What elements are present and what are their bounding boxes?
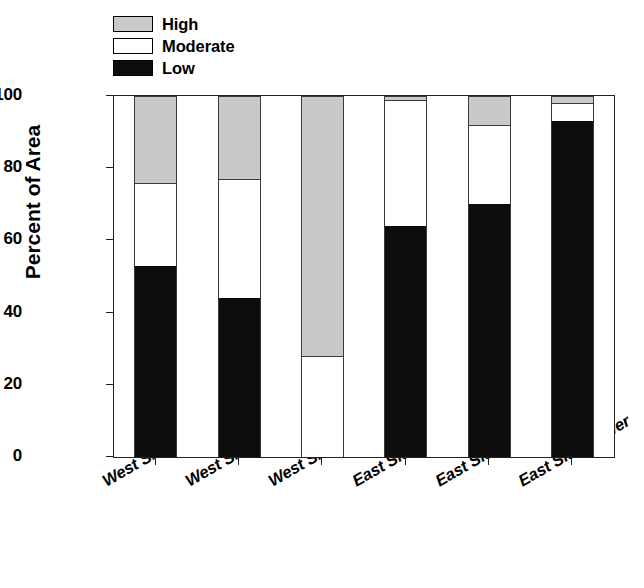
y-tick-mark xyxy=(106,312,113,313)
y-tick-label: 40 xyxy=(0,302,22,322)
legend-swatch-high xyxy=(113,16,153,32)
plot-area xyxy=(114,96,614,457)
bar-west-side-middle xyxy=(218,96,261,457)
y-tick-label: 100 xyxy=(0,85,22,105)
bar-segment-low xyxy=(551,121,594,457)
legend-label-moderate: Moderate xyxy=(162,38,235,55)
bar-segment-low xyxy=(134,266,177,457)
y-tick-label: 60 xyxy=(0,229,22,249)
bar-segment-high xyxy=(301,96,344,356)
y-tick-label: 20 xyxy=(0,374,22,394)
bar-west-side-lower xyxy=(134,96,177,457)
bar-segment-moderate xyxy=(384,100,427,226)
plot-frame xyxy=(113,95,615,458)
bar-segment-moderate xyxy=(468,125,511,204)
bar-segment-high xyxy=(384,96,427,100)
y-tick-mark xyxy=(106,384,113,385)
stacked-bar-chart: High Moderate Low Percent of Area 020406… xyxy=(0,0,644,588)
bar-east-side-lower xyxy=(551,96,594,457)
bar-east-side-middle xyxy=(468,96,511,457)
bar-segment-high xyxy=(134,96,177,183)
bar-segment-moderate xyxy=(134,183,177,266)
bar-segment-low xyxy=(218,298,261,457)
bar-segment-high xyxy=(218,96,261,179)
legend-swatch-low xyxy=(113,60,153,76)
bar-segment-high xyxy=(468,96,511,125)
y-tick-label: 0 xyxy=(0,446,22,466)
legend-item-low: Low xyxy=(113,58,235,78)
y-tick-mark xyxy=(106,167,113,168)
bar-east-side-upper xyxy=(384,96,427,457)
legend-item-moderate: Moderate xyxy=(113,36,235,56)
bar-segment-low xyxy=(384,226,427,457)
bar-segment-low xyxy=(468,204,511,457)
legend-item-high: High xyxy=(113,14,235,34)
bar-segment-moderate xyxy=(551,103,594,121)
y-tick-label: 80 xyxy=(0,157,22,177)
bar-segment-moderate xyxy=(218,179,261,298)
legend-label-low: Low xyxy=(162,60,195,77)
bar-west-side-upper xyxy=(301,96,344,457)
legend-swatch-moderate xyxy=(113,38,153,54)
y-tick-mark xyxy=(106,239,113,240)
chart-legend: High Moderate Low xyxy=(113,14,235,78)
y-tick-mark xyxy=(106,95,113,96)
legend-label-high: High xyxy=(162,16,198,33)
y-axis-label: Percent of Area xyxy=(21,2,45,402)
y-tick-mark xyxy=(106,456,113,457)
bar-segment-moderate xyxy=(301,356,344,457)
bar-segment-high xyxy=(551,96,594,103)
